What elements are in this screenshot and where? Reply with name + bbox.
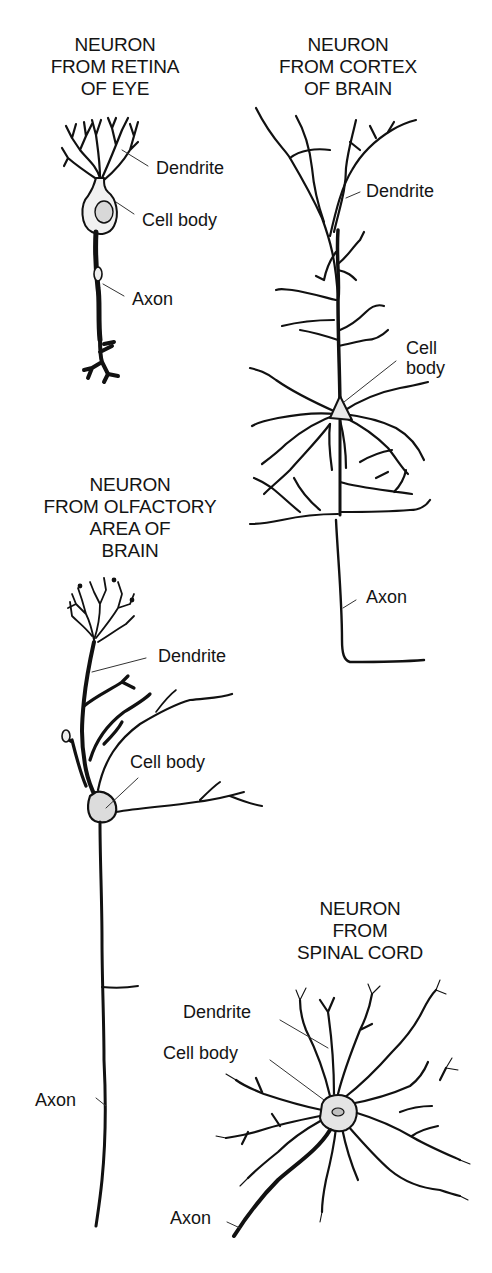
label-spinal-axon: Axon	[170, 1208, 211, 1228]
olfactory-neuron-drawing	[62, 578, 262, 1226]
title-cortex-neuron: NEURON FROM CORTEX OF BRAIN	[258, 34, 438, 100]
label-olfactory-cell-body: Cell body	[130, 752, 205, 772]
label-spinal-dendrite: Dendrite	[183, 1002, 251, 1022]
label-retina-axon: Axon	[132, 289, 173, 309]
neuron-types-diagram: NEURON FROM RETINA OF EYE NEURON FROM CO…	[0, 0, 492, 1273]
label-spinal-cell-body: Cell body	[163, 1043, 238, 1063]
label-olfactory-axon: Axon	[35, 1090, 76, 1110]
label-retina-dendrite: Dendrite	[156, 158, 224, 178]
label-cortex-dendrite: Dendrite	[366, 181, 434, 201]
label-retina-cell-body: Cell body	[142, 210, 217, 230]
label-olfactory-dendrite: Dendrite	[158, 646, 226, 666]
label-cortex-cell-body: Cell body	[406, 338, 445, 378]
title-retina-neuron: NEURON FROM RETINA OF EYE	[30, 34, 200, 100]
label-cortex-axon: Axon	[366, 587, 407, 607]
retina-neuron-drawing	[62, 118, 148, 382]
title-spinal-neuron: NEURON FROM SPINAL CORD	[270, 898, 450, 964]
title-olfactory-neuron: NEURON FROM OLFACTORY AREA OF BRAIN	[20, 474, 240, 562]
spinal-neuron-drawing	[216, 980, 470, 1236]
